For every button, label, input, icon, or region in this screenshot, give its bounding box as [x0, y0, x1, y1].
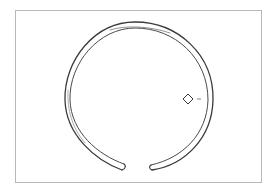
bracelet-drawing — [0, 0, 275, 190]
bracelet-ring-icon — [65, 22, 213, 170]
cross-section-diamond-icon — [183, 94, 201, 104]
